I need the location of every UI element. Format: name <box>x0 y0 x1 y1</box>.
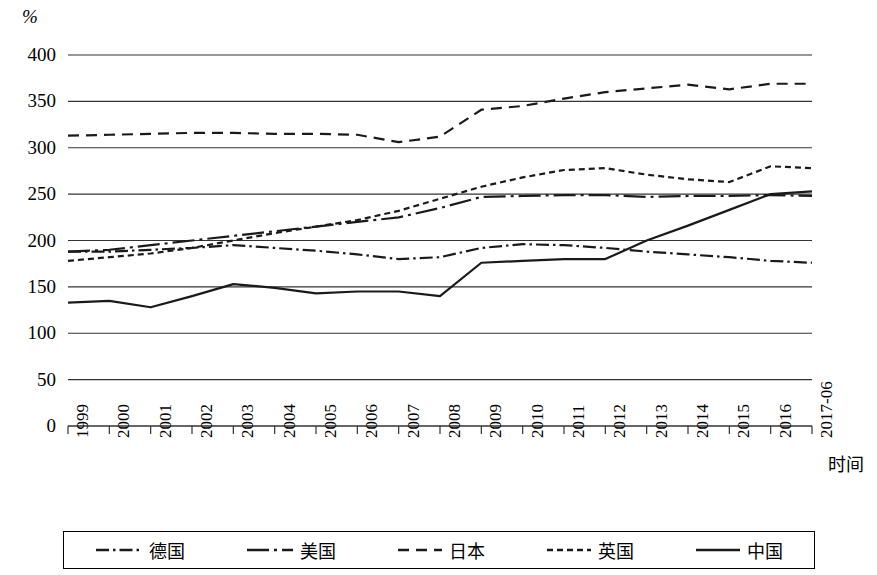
legend-item-英国[interactable]: 英国 <box>546 537 634 563</box>
y-tick-label: 200 <box>2 231 56 250</box>
x-tick-label: 2012 <box>611 404 628 438</box>
series-line-美国 <box>68 195 812 252</box>
x-axis-title: 时间 <box>828 450 864 476</box>
series-line-德国 <box>68 244 812 263</box>
chart-legend: 德国美国日本英国中国 <box>63 531 815 569</box>
x-tick-label: 2017-06 <box>818 381 835 438</box>
x-tick-label: 2003 <box>239 404 256 438</box>
y-tick-label: 0 <box>2 416 56 435</box>
x-tick-label: 2015 <box>735 404 752 438</box>
legend-swatch-美国 <box>246 544 294 556</box>
x-tick-label: 2010 <box>529 404 546 438</box>
y-axis-unit-label: % <box>22 6 38 28</box>
x-tick-label: 2011 <box>570 405 587 438</box>
legend-label: 日本 <box>449 537 485 563</box>
legend-label: 英国 <box>598 537 634 563</box>
plot-area <box>0 0 877 575</box>
legend-label: 美国 <box>300 537 336 563</box>
legend-label: 德国 <box>149 537 185 563</box>
legend-item-日本[interactable]: 日本 <box>397 537 485 563</box>
x-tick-label: 2000 <box>115 404 132 438</box>
series-group <box>68 84 812 308</box>
x-tick-label: 2013 <box>653 404 670 438</box>
x-tick-label: 2007 <box>405 404 422 438</box>
x-tick-label: 2001 <box>157 404 174 438</box>
series-line-日本 <box>68 84 812 142</box>
x-tick-label: 1999 <box>74 404 91 438</box>
x-tick-label: 2016 <box>777 404 794 438</box>
series-line-中国 <box>68 191 812 307</box>
legend-item-德国[interactable]: 德国 <box>95 537 185 563</box>
legend-item-美国[interactable]: 美国 <box>246 537 336 563</box>
series-line-英国 <box>68 166 812 261</box>
x-tick-label: 2004 <box>281 404 298 438</box>
y-tick-label: 400 <box>2 45 56 64</box>
x-tick-label: 2014 <box>694 404 711 438</box>
x-tick-label: 2008 <box>446 404 463 438</box>
x-tick-label: 2006 <box>363 404 380 438</box>
chart-container: % 400350300250200150100500 1999200020012… <box>0 0 877 575</box>
y-tick-label: 350 <box>2 91 56 110</box>
y-tick-label: 100 <box>2 323 56 342</box>
legend-item-中国[interactable]: 中国 <box>695 537 783 563</box>
y-tick-label: 150 <box>2 277 56 296</box>
y-tick-label: 250 <box>2 184 56 203</box>
legend-swatch-中国 <box>695 544 741 556</box>
y-tick-label: 50 <box>2 370 56 389</box>
x-tick-label: 2002 <box>198 404 215 438</box>
legend-swatch-英国 <box>546 544 592 556</box>
x-tick-label: 2009 <box>487 404 504 438</box>
gridlines <box>68 55 812 426</box>
y-tick-label: 300 <box>2 138 56 157</box>
legend-swatch-德国 <box>95 544 143 556</box>
legend-label: 中国 <box>747 537 783 563</box>
x-tick-label: 2005 <box>322 404 339 438</box>
legend-swatch-日本 <box>397 544 443 556</box>
